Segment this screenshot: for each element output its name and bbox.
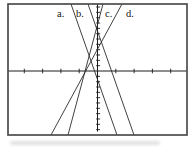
label-a: a. xyxy=(57,8,64,20)
scan-smudge xyxy=(10,141,160,145)
label-d: d. xyxy=(126,8,134,20)
line-a xyxy=(71,4,117,135)
graph-figure: a. b. c. d. xyxy=(0,0,190,147)
label-c: c. xyxy=(105,8,112,20)
graph-svg xyxy=(0,0,190,147)
label-b: b. xyxy=(76,8,84,20)
